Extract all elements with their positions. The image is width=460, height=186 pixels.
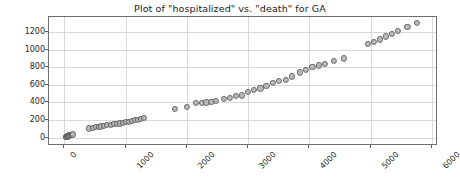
y-tick-label: 1000 [25,44,45,53]
x-tick-mark [125,145,126,148]
scatter-point [413,20,419,26]
plot-area [48,16,437,145]
x-tick-label: 6000 [441,150,460,171]
scatter-point [404,24,410,30]
x-tick-label: 2000 [196,150,217,171]
scatter-point [289,73,295,79]
scatter-point [331,58,337,64]
y-tick-label: 600 [30,79,45,88]
x-tick-label: 1000 [135,150,156,171]
scatter-point [341,55,347,61]
x-tick-mark [63,145,64,148]
y-tick-label: 200 [30,115,45,124]
scatter-point [276,78,282,84]
x-tick-mark [431,145,432,148]
gridline-horizontal [49,85,436,86]
gridline-horizontal [49,32,436,33]
x-tick-mark [308,145,309,148]
scatter-point [171,105,177,111]
gridline-horizontal [49,120,436,121]
gridline-vertical [371,17,372,144]
scatter-point [283,76,289,82]
scatter-point [239,92,245,98]
chart-figure: Plot of "hospitalized" vs. "death" for G… [0,0,460,186]
y-tick-label: 1200 [25,26,45,35]
x-tick-label: 3000 [257,150,278,171]
chart-title: Plot of "hospitalized" vs. "death" for G… [0,3,460,14]
x-tick-label: 0 [69,150,79,160]
gridline-vertical [432,17,433,144]
gridline-vertical [187,17,188,144]
gridline-horizontal [49,138,436,139]
y-tick-label: 400 [30,97,45,106]
gridline-vertical [248,17,249,144]
x-tick-label: 4000 [318,150,339,171]
scatter-point [395,28,401,34]
y-tick-label: 0 [40,132,45,141]
x-tick-mark [247,145,248,148]
scatter-point [322,61,328,67]
gridline-horizontal [49,102,436,103]
scatter-point [263,83,269,89]
gridline-vertical [309,17,310,144]
x-tick-label: 5000 [380,150,401,171]
y-tick-label: 800 [30,62,45,71]
scatter-point [377,36,383,42]
gridline-horizontal [49,50,436,51]
gridline-vertical [64,17,65,144]
x-tick-mark [186,145,187,148]
x-tick-mark [370,145,371,148]
scatter-point [70,131,76,137]
gridline-horizontal [49,67,436,68]
scatter-point [184,104,190,110]
